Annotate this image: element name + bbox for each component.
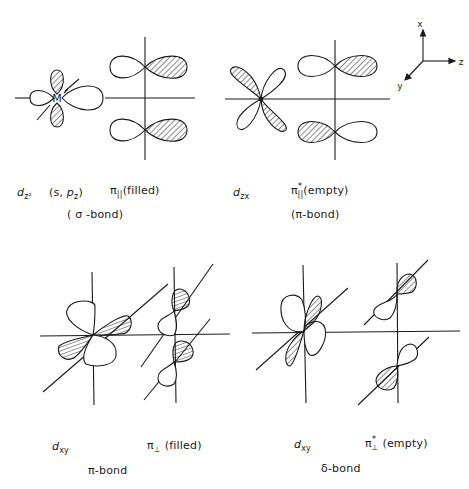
pi-parallel-filled-label: π||(filled) [110, 184, 160, 197]
pi-perp-filled-label: π⊥ (filled) [147, 439, 202, 452]
pi-star-perp-empty-label: π*⊥ (empty) [365, 437, 428, 450]
dxy-pi-orbital [40, 272, 230, 405]
dxy-pi-label: dxy [52, 440, 69, 453]
dzx-label: dzx [233, 186, 250, 199]
pi-star-perp-empty-orbitals [358, 260, 429, 405]
pi-star-parallel-empty-label: π*||(empty) [291, 184, 349, 197]
pi-bond-label-top: (π-bond) [291, 208, 339, 221]
pi-perp-filled-orbitals [141, 264, 213, 403]
sigma-bond-label: ( σ -bond) [67, 208, 123, 221]
ligand-s-pz-label: (s, pz) [49, 186, 83, 199]
axis-z-label: z [459, 57, 464, 67]
axes-gizmo [405, 30, 455, 80]
dz2-label: dz² [17, 186, 32, 199]
axis-y-label: y [397, 81, 403, 91]
dzx-orbital [225, 40, 390, 160]
pi-parallel-filled-orbitals [105, 37, 195, 160]
dxy-delta-label: dxy [294, 438, 311, 451]
orbital-diagram: M x z y [0, 0, 469, 489]
metal-label: M [52, 92, 62, 105]
pi-bond-label-bottom: π-bond [88, 464, 127, 477]
dxy-delta-orbital [252, 265, 460, 403]
axis-x-label: x [417, 19, 423, 29]
delta-bond-label: δ-bond [321, 462, 361, 475]
